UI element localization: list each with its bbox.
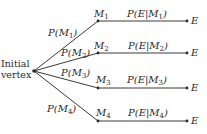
cond-prob-e-given-m1: P(E|M1) <box>127 8 167 23</box>
cond-prob-e-given-m4: P(E|M4) <box>128 107 168 122</box>
e4-vertex-dot <box>186 120 189 123</box>
e3-vertex-dot <box>186 87 189 90</box>
e1-vertex-dot <box>186 20 189 23</box>
root-vertex-dot <box>32 69 36 73</box>
initial-vertex-label-line1: Initial <box>1 58 31 69</box>
edge-prob-m3: P(M3) <box>61 67 90 82</box>
e2-vertex-dot <box>186 52 189 55</box>
node-label-m3: M3 <box>96 74 111 89</box>
outcome-label-e2: E <box>191 47 198 58</box>
edge-prob-m2: P(M2) <box>61 47 90 62</box>
outcome-edges <box>98 21 187 121</box>
cond-prob-e-given-m2: P(E|M2) <box>128 40 168 55</box>
edge-prob-m1: P(M1) <box>48 27 77 42</box>
node-label-m2: M2 <box>94 40 109 55</box>
initial-vertex-label-line2: vertex <box>1 69 31 80</box>
cond-prob-e-given-m3: P(E|M3) <box>127 74 167 89</box>
outcome-label-e4: E <box>191 115 198 126</box>
edge-prob-m4: P(M4) <box>47 103 76 118</box>
outcome-label-e1: E <box>191 15 198 26</box>
outcome-label-e3: E <box>191 82 198 93</box>
initial-vertex-label: Initial vertex <box>1 58 31 80</box>
node-label-m1: M1 <box>94 8 109 23</box>
node-label-m4: M4 <box>96 107 111 122</box>
